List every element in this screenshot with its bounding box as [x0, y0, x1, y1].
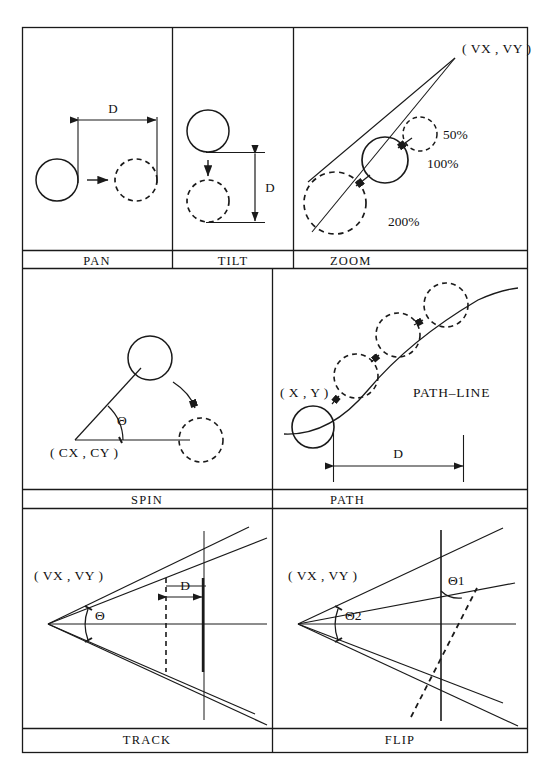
pan-distance-label: D [108, 101, 117, 116]
panel-captions: PAN TILT ZOOM SPIN PATH TRACK FLIP [83, 254, 415, 747]
path-circle-2 [376, 313, 420, 357]
caption-path: PATH [330, 493, 365, 507]
spin-center-label: ( CX , CY ) [50, 445, 118, 460]
path-distance-label: D [393, 446, 403, 461]
tilt-extension-lines [206, 153, 265, 223]
panel-flip: ( VX , VY ) Θ1 Θ2 [288, 528, 518, 726]
panel-zoom: ( VX , VY ) 50% 100% 200% [304, 41, 531, 234]
path-circle-1 [334, 354, 378, 398]
tilt-start-circle [187, 110, 229, 152]
caption-zoom: ZOOM [330, 254, 372, 268]
path-start-point-label: ( X , Y ) [280, 385, 329, 400]
path-arrow-2 [371, 355, 379, 362]
track-angle-label: Θ [95, 608, 105, 623]
spin-angle-label: Θ [117, 413, 127, 428]
flip-angle1-label: Θ1 [448, 573, 465, 588]
panel-path: D ( X , Y ) PATH–LINE [280, 283, 518, 482]
track-frustum-lines [48, 527, 267, 725]
flip-frame-tilted [411, 588, 477, 717]
caption-pan: PAN [83, 254, 110, 268]
path-start-circle [292, 406, 334, 448]
tilt-distance-label: D [265, 180, 274, 195]
spin-rotation-arrow [173, 382, 195, 408]
panel-tilt: D [187, 110, 275, 223]
panel-pan: D [36, 101, 157, 201]
flip-angle2-label: Θ2 [345, 608, 362, 623]
zoom-circle-200 [304, 172, 366, 234]
caption-flip: FLIP [385, 733, 416, 747]
spin-radius-start [75, 368, 141, 440]
spin-arc-tick [119, 437, 122, 443]
track-vanishing-point-label: ( VX , VY ) [34, 568, 103, 583]
zoom-vanishing-point-label: ( VX , VY ) [462, 41, 531, 56]
path-arrow-3 [414, 320, 423, 325]
zoom-circle-50 [403, 117, 437, 151]
track-distance-label: D [180, 578, 190, 593]
flip-frustum-lines [298, 528, 518, 726]
tilt-end-circle [187, 180, 229, 222]
caption-tilt: TILT [218, 254, 249, 268]
caption-spin: SPIN [131, 493, 163, 507]
zoom-scale-200-label: 200% [388, 214, 420, 229]
panel-track: D ( VX , VY ) Θ [34, 527, 267, 725]
caption-track: TRACK [123, 733, 171, 747]
path-arrow-1 [332, 396, 339, 404]
flip-vanishing-point-label: ( VX , VY ) [288, 568, 357, 583]
figure-canvas: D D ( VX , VY ) 50 [0, 0, 548, 772]
panel-spin: ( CX , CY ) Θ [50, 336, 223, 462]
path-curve [284, 288, 518, 434]
zoom-scale-50-label: 50% [443, 127, 468, 142]
pan-start-circle [36, 159, 78, 201]
zoom-scale-100-label: 100% [427, 156, 459, 171]
path-line-label: PATH–LINE [413, 385, 490, 400]
camera-moves-figure: D D ( VX , VY ) 50 [0, 0, 548, 772]
pan-extension-lines [78, 117, 157, 183]
pan-end-circle [115, 159, 157, 201]
spin-start-circle [128, 336, 172, 380]
